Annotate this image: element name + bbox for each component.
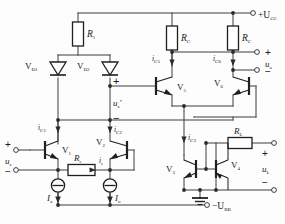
junction-iC1-node [56, 118, 60, 122]
junction-v3-emitter-bottom [182, 188, 186, 192]
junction-ground-node [198, 188, 202, 192]
label-v1: V1 [62, 145, 72, 156]
label-rc-left: RC [180, 33, 191, 44]
v6-emitter-arrow [233, 89, 241, 95]
transistor-v3 [184, 160, 196, 178]
label-usprime-plus: + [113, 75, 119, 87]
v3-emitter-arrow [184, 172, 192, 178]
arrow-iC2 [107, 127, 112, 134]
v2-emitter-arrow [110, 153, 118, 159]
v3-collector-lead [184, 160, 196, 165]
label-uL: uL [262, 164, 270, 175]
junction-ubb-right [108, 203, 112, 207]
current-source-left [51, 179, 64, 204]
schematic-svg: +UCC −UBB R1 RC RC Re RL VD1 [0, 0, 285, 224]
junction-vd2-cathode [108, 84, 112, 88]
arrow-iC6 [230, 60, 235, 67]
v2-collector-lead [110, 141, 127, 146]
junction-emitter-tie [182, 104, 186, 108]
v4-collector-lead [216, 160, 228, 165]
label-ie: ie [99, 156, 104, 166]
v5-emitter-arrow [164, 89, 172, 95]
current-sources [51, 179, 116, 204]
junction-iC2-node [108, 118, 112, 122]
label-us-plus: + [5, 139, 11, 150]
transistor-v5 [156, 77, 172, 95]
label-re: Re [73, 153, 83, 164]
transistor-v6 [233, 77, 249, 95]
resistor-rc-left-body [167, 26, 178, 50]
junction-v3v4-base [204, 167, 208, 171]
label-uL-minus: − [262, 177, 268, 188]
arrow-iC5 [169, 60, 174, 67]
terminal-uL-plus [272, 141, 277, 146]
junction-rl-base-node [204, 141, 208, 145]
transistor-v2 [110, 141, 127, 159]
v5-collector-lead [156, 77, 172, 82]
label-us: us [5, 156, 12, 167]
v1-emitter-arrow [50, 153, 58, 159]
label-uo-plus: + [265, 47, 271, 58]
v1-collector-lead [45, 141, 58, 146]
circuit-diagram-canvas: +UCC −UBB R1 RC RC Re RL VD1 [0, 0, 285, 224]
terminal-us-minus [14, 168, 19, 173]
junction-ucc-rail [231, 11, 235, 15]
label-v6: V6 [214, 78, 224, 89]
diode-vd1 [50, 62, 66, 75]
label-vd2: VD2 [77, 61, 90, 72]
label-rl: RL [233, 126, 243, 137]
label-io-left: Io [46, 193, 53, 204]
arrow-iC3 [181, 137, 186, 144]
label-usprime-minus: − [113, 112, 119, 124]
label-v5: V5 [177, 82, 187, 93]
transistor-v1 [45, 141, 58, 159]
junction-v4-emitter-bottom [214, 188, 218, 192]
diode-vd1-triangle [50, 62, 66, 75]
label-uo: uo [265, 59, 273, 70]
junction-v1-emitter-node [56, 168, 60, 172]
label-io-right: Io [114, 193, 121, 204]
terminal-ucc [251, 11, 256, 16]
label-ucc: +UCC [258, 10, 278, 21]
arrow-iC1 [55, 127, 60, 134]
label-r1: R1 [86, 29, 96, 40]
label-v3: V3 [166, 164, 176, 175]
label-iC3: iC3 [188, 133, 196, 143]
resistor-bodies [68, 22, 252, 176]
label-usprime: us′ [113, 98, 122, 109]
label-iC5: iC5 [152, 54, 160, 64]
resistor-r1-body [73, 22, 84, 46]
label-iC1: iC1 [38, 123, 46, 133]
transistor-v4 [216, 143, 228, 190]
terminal-uL-minus [272, 188, 277, 193]
terminal-ubb [205, 203, 210, 208]
label-uL-plus: + [262, 148, 268, 159]
junction-rcright-node [231, 50, 235, 54]
current-arrows [55, 60, 235, 173]
label-v2: V2 [96, 137, 106, 148]
diode-vd2-triangle [102, 62, 118, 75]
terminal-uo-minus [255, 68, 260, 73]
resistor-rc-right-body [228, 26, 239, 50]
cs-right-arrow-head [107, 197, 113, 204]
cs-left-arrow-head [55, 197, 61, 204]
label-us-minus: − [5, 166, 11, 177]
v6-collector-lead [233, 77, 249, 82]
junction-ubb-left [56, 203, 60, 207]
resistor-rl-body [228, 138, 252, 149]
junction-uo-minus [231, 68, 235, 72]
junction-v2-emitter-node [108, 168, 112, 172]
label-iC2: iC2 [114, 125, 122, 135]
label-v4: V4 [231, 160, 241, 171]
label-vd1: VD1 [25, 61, 38, 72]
label-ubb: −UBB [212, 201, 232, 212]
diode-vd2 [102, 62, 118, 75]
junction-v5-collector [170, 50, 174, 54]
label-rc-right: RC [241, 33, 252, 44]
terminal-uo-plus [255, 50, 260, 55]
label-iC6: iC6 [213, 54, 221, 64]
terminal-us-plus [14, 148, 19, 153]
